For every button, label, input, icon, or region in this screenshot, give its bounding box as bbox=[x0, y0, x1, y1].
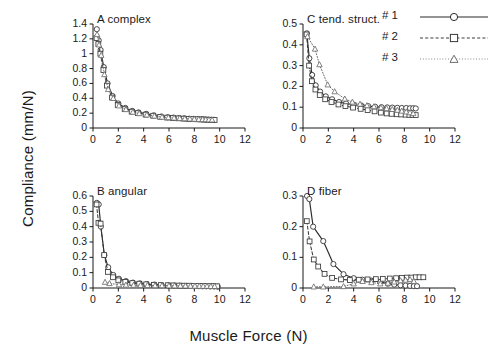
data-point bbox=[384, 111, 389, 116]
data-point bbox=[389, 111, 394, 116]
x-tick-label: 4 bbox=[132, 293, 156, 305]
x-tick-label: 6 bbox=[157, 293, 181, 305]
legend-label-1: # 1 bbox=[382, 9, 398, 21]
panel-a-plot bbox=[85, 16, 255, 144]
x-tick-label: 8 bbox=[392, 133, 416, 145]
data-point bbox=[311, 257, 316, 262]
data-point bbox=[116, 278, 121, 283]
x-tick-label: 6 bbox=[157, 133, 181, 145]
y-tick-label: 0.4 bbox=[53, 220, 87, 232]
data-point bbox=[379, 110, 384, 115]
y-tick-label: 0.4 bbox=[263, 38, 297, 50]
y-tick-label: 0 bbox=[53, 121, 87, 133]
x-tick-label: 8 bbox=[182, 293, 206, 305]
data-point bbox=[347, 278, 352, 283]
data-point bbox=[313, 87, 318, 92]
x-tick-label: 0 bbox=[291, 133, 315, 145]
x-tick-label: 2 bbox=[316, 293, 340, 305]
y-axis-label: Compliance (mm/N) bbox=[19, 49, 36, 269]
legend-label-2: # 2 bbox=[382, 30, 398, 42]
y-tick-label: 0.4 bbox=[53, 91, 87, 103]
x-tick-label: 2 bbox=[106, 133, 130, 145]
y-tick-label: 0.8 bbox=[53, 62, 87, 74]
data-point bbox=[316, 264, 321, 269]
data-point bbox=[304, 219, 309, 224]
data-point bbox=[321, 238, 326, 243]
data-point bbox=[358, 106, 363, 111]
x-tick-label: 2 bbox=[106, 293, 130, 305]
data-point bbox=[336, 102, 341, 107]
y-tick-label: 0.2 bbox=[53, 250, 87, 262]
data-point bbox=[309, 79, 314, 84]
legend-entry-1: # 1 bbox=[382, 8, 494, 26]
y-tick-label: 1.4 bbox=[53, 17, 87, 29]
y-tick-label: 0 bbox=[263, 281, 297, 293]
data-point bbox=[307, 56, 312, 61]
data-point bbox=[312, 46, 317, 51]
y-tick-label: 1 bbox=[53, 47, 87, 59]
x-tick-label: 10 bbox=[418, 293, 442, 305]
y-tick-label: 0.6 bbox=[53, 76, 87, 88]
data-point bbox=[94, 27, 99, 32]
panel-b-title: B angular bbox=[97, 185, 147, 197]
data-point bbox=[323, 97, 328, 102]
panel-b-angular: B angular 02468101200.10.20.30.40.50.6 bbox=[85, 188, 250, 301]
y-tick-label: 0 bbox=[263, 121, 297, 133]
data-point bbox=[317, 62, 322, 67]
data-point bbox=[365, 108, 370, 113]
y-tick-label: 0.6 bbox=[53, 189, 87, 201]
legend-sample-2 bbox=[418, 29, 490, 47]
data-point bbox=[106, 270, 111, 275]
x-tick-label: 4 bbox=[132, 133, 156, 145]
data-point bbox=[329, 100, 334, 105]
data-point bbox=[373, 277, 378, 282]
x-tick-label: 12 bbox=[233, 133, 257, 145]
data-point bbox=[365, 277, 370, 282]
y-tick-label: 0.2 bbox=[263, 220, 297, 232]
panel-a-title: A complex bbox=[97, 13, 151, 25]
data-point bbox=[398, 283, 403, 288]
data-point bbox=[421, 275, 426, 280]
x-tick-label: 0 bbox=[81, 133, 105, 145]
legend-entry-2: # 2 bbox=[382, 29, 494, 47]
x-tick-label: 0 bbox=[291, 293, 315, 305]
data-point bbox=[317, 93, 322, 98]
x-tick-label: 2 bbox=[316, 133, 340, 145]
legend-label-3: # 3 bbox=[382, 51, 398, 63]
y-tick-label: 0.3 bbox=[263, 59, 297, 71]
x-tick-label: 10 bbox=[208, 133, 232, 145]
panel-d-title: D fiber bbox=[307, 185, 342, 197]
data-point bbox=[102, 279, 107, 284]
legend: # 1 # 2 # 3 bbox=[382, 8, 494, 70]
data-point bbox=[330, 275, 335, 280]
data-point bbox=[341, 272, 346, 277]
data-point bbox=[331, 261, 336, 266]
data-point bbox=[325, 82, 330, 87]
x-tick-label: 0 bbox=[81, 293, 105, 305]
x-tick-label: 10 bbox=[208, 293, 232, 305]
x-tick-label: 12 bbox=[443, 133, 467, 145]
y-tick-label: 0.2 bbox=[53, 106, 87, 118]
data-point bbox=[94, 32, 99, 37]
data-point bbox=[413, 106, 418, 111]
legend-entry-3: # 3 bbox=[382, 50, 494, 68]
y-tick-label: 0.3 bbox=[263, 189, 297, 201]
data-point bbox=[94, 202, 99, 207]
x-tick-label: 12 bbox=[443, 293, 467, 305]
data-point bbox=[343, 104, 348, 109]
x-tick-label: 6 bbox=[367, 293, 391, 305]
x-tick-label: 4 bbox=[342, 133, 366, 145]
y-tick-label: 0.5 bbox=[263, 17, 297, 29]
panel-a-complex: A complex 02468101200.20.40.60.811.21.4 bbox=[85, 16, 250, 141]
y-tick-label: 0.1 bbox=[53, 266, 87, 278]
data-point bbox=[307, 239, 312, 244]
compliance-vs-muscle-force-figure: Compliance (mm/N) Muscle Force (N) A com… bbox=[0, 0, 497, 354]
data-point bbox=[342, 96, 347, 101]
x-tick-label: 8 bbox=[182, 133, 206, 145]
panel-c-title: C tend. struct. bbox=[307, 13, 380, 25]
x-tick-label: 8 bbox=[392, 293, 416, 305]
data-point bbox=[307, 196, 312, 201]
x-axis-label: Muscle Force (N) bbox=[0, 327, 497, 344]
y-tick-label: 0.3 bbox=[53, 235, 87, 247]
y-tick-label: 0.1 bbox=[263, 250, 297, 262]
